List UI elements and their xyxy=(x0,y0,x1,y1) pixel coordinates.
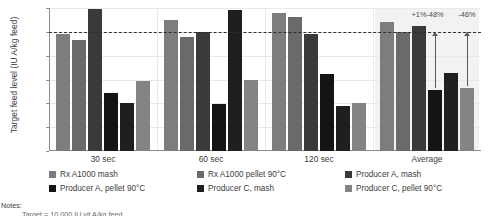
bar xyxy=(164,20,178,151)
legend-swatch-icon xyxy=(197,185,204,192)
bar xyxy=(272,13,286,151)
legend-label: Producer A, mash xyxy=(356,170,421,179)
group-separator xyxy=(265,8,266,151)
bar xyxy=(104,93,118,151)
bar xyxy=(320,74,334,151)
legend-item[interactable]: Producer C, mash xyxy=(197,184,274,193)
bar xyxy=(428,90,442,151)
bar xyxy=(396,32,410,151)
chart-legend: Rx A1000 mashRx A1000 pellet 90°CProduce… xyxy=(49,170,489,198)
bar xyxy=(352,103,366,151)
bar xyxy=(136,81,150,151)
legend-swatch-icon xyxy=(345,171,352,178)
x-axis-group-label: 120 sec xyxy=(304,154,333,164)
group-separator xyxy=(373,8,374,151)
legend-label: Producer C, pellet 90°C xyxy=(356,184,442,193)
change-arrow xyxy=(435,32,436,88)
bar xyxy=(336,106,350,151)
percent-change-label: +1% xyxy=(412,10,427,19)
legend-item[interactable]: Producer A, mash xyxy=(345,170,421,179)
plot-inner: 02,0004,0006,0008,00010,00012,000+1%-48%… xyxy=(49,8,481,151)
bar xyxy=(196,32,210,151)
legend-item[interactable]: Producer C, pellet 90°C xyxy=(345,184,442,193)
x-axis-group-label: 30 sec xyxy=(91,154,116,164)
x-axis-group-label: Average xyxy=(411,154,442,164)
y-axis-tick xyxy=(46,151,49,152)
bar xyxy=(212,104,226,151)
bar xyxy=(412,26,426,151)
percent-change-label: -46% xyxy=(458,10,475,19)
legend-swatch-icon xyxy=(197,171,204,178)
y-axis-line xyxy=(49,8,50,151)
legend-swatch-icon xyxy=(49,185,56,192)
bar xyxy=(56,34,70,151)
legend-label: Rx A1000 pellet 90°C xyxy=(208,170,286,179)
legend-swatch-icon xyxy=(49,171,56,178)
bar xyxy=(288,17,302,151)
legend-item[interactable]: Producer A, pellet 90°C xyxy=(49,184,145,193)
change-arrow xyxy=(467,32,468,86)
bar xyxy=(460,88,474,151)
bar xyxy=(380,22,394,151)
bar xyxy=(72,40,86,151)
x-axis-group-label: 60 sec xyxy=(199,154,224,164)
bar xyxy=(180,37,194,151)
legend-swatch-icon xyxy=(345,185,352,192)
plot-area: 02,0004,0006,0008,00010,00012,000+1%-48%… xyxy=(49,8,481,151)
bar xyxy=(304,34,318,151)
legend-label: Producer C, mash xyxy=(208,184,274,193)
bar xyxy=(120,103,134,151)
legend-label: Rx A1000 mash xyxy=(60,170,118,179)
bar xyxy=(444,73,458,151)
chart-figure: Target feed level (IU A/kg feed) 02,0004… xyxy=(0,0,489,216)
notes-heading: Notes: xyxy=(1,201,22,210)
percent-change-label: -48% xyxy=(426,10,443,19)
bar xyxy=(244,80,258,152)
legend-item[interactable]: Rx A1000 mash xyxy=(49,170,118,179)
group-separator xyxy=(157,8,158,151)
change-arrow-head xyxy=(432,32,438,36)
legend-item[interactable]: Rx A1000 pellet 90°C xyxy=(197,170,286,179)
legend-label: Producer A, pellet 90°C xyxy=(60,184,145,193)
y-axis-title: Target feed level (IU A/kg feed) xyxy=(9,0,19,150)
target-reference-line xyxy=(49,32,481,33)
bar xyxy=(88,9,102,151)
change-arrow-head xyxy=(464,32,470,36)
notes-line-1: Target = 10,000 IU vit A/kg feed xyxy=(22,210,123,216)
